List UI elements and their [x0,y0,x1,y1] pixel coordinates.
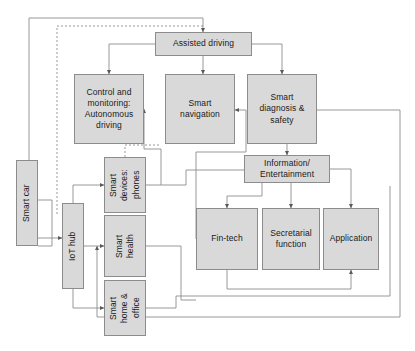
diagram-canvas: Smart car Assisted driving Control and m… [0,0,415,351]
node-fin-tech-label: Fin-tech [211,233,243,244]
node-application-label: Application [330,233,373,244]
node-iot-hub-label: IoT hub [67,231,78,260]
node-application[interactable]: Application [323,208,379,270]
node-iot-hub[interactable]: IoT hub [62,203,84,289]
node-smart-home-office[interactable]: Smart home & office [104,280,146,336]
node-smart-health-label: Smart health [114,234,136,258]
node-smart-devices-phones-label: Smart devices: phones [108,169,142,201]
node-smart-navigation[interactable]: Smart navigation [165,74,235,144]
wire-info-to-fintech [227,183,262,208]
node-smart-devices-phones[interactable]: Smart devices: phones [104,157,146,213]
node-assisted-driving[interactable]: Assisted driving [155,32,252,56]
node-assisted-driving-label: Assisted driving [173,38,234,49]
node-smart-health[interactable]: Smart health [104,215,146,277]
node-information-entertainment[interactable]: Information/ Entertainment [244,155,330,183]
wire-health-rail [146,246,196,300]
node-smart-navigation-label: Smart navigation [180,98,220,120]
wire-apps-return-rail [227,270,351,289]
wire-dashed-devices-up [125,145,161,157]
node-smart-diagnosis-safety-label: Smart diagnosis & safety [259,92,304,126]
wire-iothub-to-devices [73,185,104,203]
wire-devices-to-control [144,109,161,185]
node-smart-car[interactable]: Smart car [16,160,38,246]
wire-iothub-to-home [73,289,104,308]
node-information-entertainment-label: Information/ Entertainment [260,158,314,180]
node-control-monitoring[interactable]: Control and monitoring: Autonomous drivi… [74,74,144,144]
wire-assisted-to-diagnosis [252,44,282,74]
node-secretarial-function-label: Secretarial function [270,228,312,250]
node-smart-car-label: Smart car [21,184,32,222]
wire-assisted-to-control [109,44,155,74]
node-smart-diagnosis-safety[interactable]: Smart diagnosis & safety [247,74,317,144]
node-fin-tech[interactable]: Fin-tech [196,208,258,270]
node-secretarial-function[interactable]: Secretarial function [262,208,320,270]
node-smart-home-office-label: Smart home & office [108,293,142,323]
wire-info-to-application [330,169,351,208]
node-control-monitoring-label: Control and monitoring: Autonomous drivi… [85,87,134,132]
wire-smartcar-stub [38,200,52,246]
